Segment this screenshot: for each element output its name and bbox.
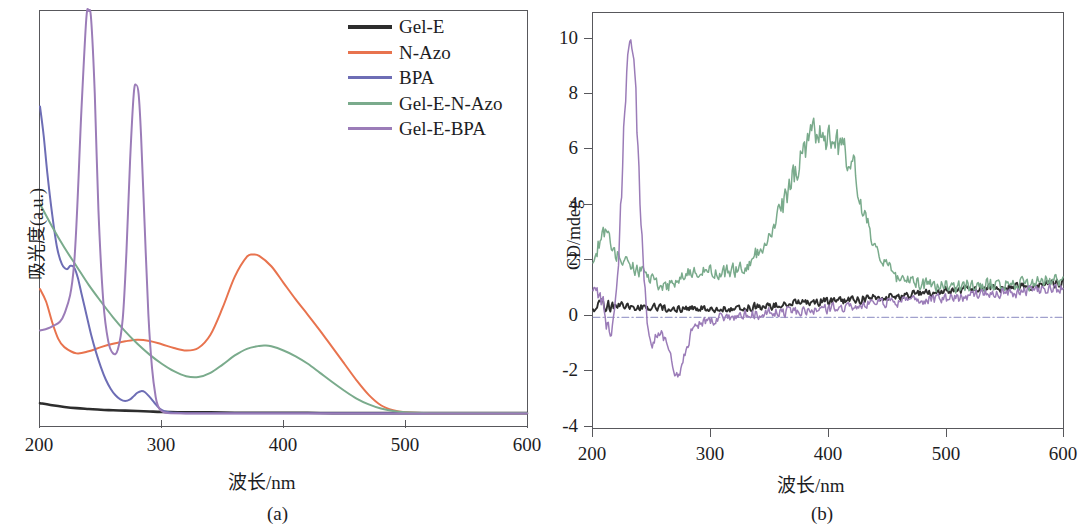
legend-item-a-2[interactable]: BPA [348, 65, 502, 91]
ytick-label-b-7: -4 [532, 415, 578, 437]
xtick-label-b-3: 500 [921, 443, 971, 465]
legend-label-a-2: BPA [399, 66, 434, 89]
ytick-b-10 [584, 38, 592, 39]
xtick-label-a-3: 500 [380, 434, 430, 456]
curves-b [593, 13, 1063, 428]
xtick-a-2 [283, 420, 284, 428]
xtick-label-a-2: 400 [258, 434, 308, 456]
panel-caption-b: (b) [811, 503, 833, 525]
legend-label-a-3: Gel-E-N-Azo [399, 92, 502, 115]
xtick-b-4 [1063, 429, 1064, 437]
legend-item-a-3[interactable]: Gel-E-N-Azo [348, 91, 502, 117]
xtick-a-3 [405, 420, 406, 428]
plot-area-b [592, 12, 1064, 429]
xtick-a-4 [527, 420, 528, 428]
ytick-label-b-0: 10 [538, 27, 578, 49]
legend-swatch-icon-a-1 [348, 51, 392, 54]
ytick-b-0 [584, 315, 592, 316]
xtick-label-b-2: 400 [803, 443, 853, 465]
xtick-label-a-4: 600 [502, 434, 552, 456]
legend-a: Gel-E N-Azo BPA Gel-E-N-Azo Gel-E-BPA [348, 14, 502, 142]
xtick-label-a-0: 200 [14, 434, 64, 456]
legend-label-a-4: Gel-E-BPA [399, 117, 486, 140]
xtick-label-b-0: 200 [567, 443, 617, 465]
figure-container: 200 300 400 500 600 波长/nm 吸光度(a.u.) Gel-… [0, 0, 1092, 529]
ytick-label-b-5: 0 [538, 304, 578, 326]
ytick-label-b-1: 8 [538, 82, 578, 104]
ytick-label-b-6: -2 [532, 359, 578, 381]
yaxis-title-b: CD/mdeg [564, 200, 585, 270]
xtick-b-1 [710, 429, 711, 437]
xtick-b-3 [946, 429, 947, 437]
legend-item-a-1[interactable]: N-Azo [348, 40, 502, 66]
legend-swatch-icon-a-0 [348, 25, 392, 29]
xtick-a-1 [161, 420, 162, 428]
xaxis-title-b: 波长/nm [777, 470, 845, 497]
yaxis-title-a: 吸光度(a.u.) [22, 188, 48, 280]
xtick-label-a-1: 300 [136, 434, 186, 456]
xtick-a-0 [39, 420, 40, 428]
xtick-b-0 [592, 429, 593, 437]
panel-a: 200 300 400 500 600 波长/nm 吸光度(a.u.) Gel-… [0, 0, 546, 529]
ytick-b-m2 [584, 370, 592, 371]
xaxis-title-a: 波长/nm [228, 467, 296, 494]
legend-item-a-0[interactable]: Gel-E [348, 14, 502, 40]
legend-swatch-icon-a-2 [348, 76, 392, 79]
legend-label-a-0: Gel-E [399, 15, 444, 38]
ytick-b-2 [584, 259, 592, 260]
ytick-b-6 [584, 148, 592, 149]
xtick-label-b-1: 300 [685, 443, 735, 465]
ytick-b-4 [584, 204, 592, 205]
legend-label-a-1: N-Azo [399, 41, 451, 64]
legend-item-a-4[interactable]: Gel-E-BPA [348, 116, 502, 142]
panel-b: 10 8 6 4 2 0 -2 -4 200 300 400 500 600 波… [546, 0, 1092, 529]
ytick-b-m4 [584, 426, 592, 427]
xtick-b-2 [828, 429, 829, 437]
ytick-label-b-2: 6 [538, 137, 578, 159]
legend-swatch-icon-a-3 [348, 102, 392, 105]
legend-swatch-icon-a-4 [348, 127, 392, 130]
panel-caption-a: (a) [267, 503, 288, 525]
ytick-b-8 [584, 93, 592, 94]
xtick-label-b-4: 600 [1038, 443, 1088, 465]
